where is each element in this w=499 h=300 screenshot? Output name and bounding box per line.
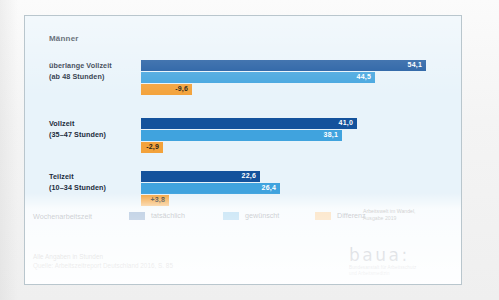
bar-value-desired: 44,5 bbox=[357, 73, 371, 80]
baua-logo-subtitle: Bundesanstalt für Arbeitsschutz und Arbe… bbox=[349, 265, 453, 277]
source-note-line1: Alle Angaben in Stunden bbox=[33, 252, 173, 261]
figure-card: Männer überlange Vollzeit (ab 48 Stunden… bbox=[24, 15, 462, 285]
category-label: Teilzeit (10–34 Stunden) bbox=[49, 171, 141, 193]
category-label-line1: überlange Vollzeit bbox=[49, 60, 141, 71]
category-bars: 54,1 44,5 -9,6 bbox=[141, 60, 462, 96]
legend-label: gewünscht bbox=[245, 211, 279, 220]
category-label: Vollzeit (35–47 Stunden) bbox=[49, 118, 141, 140]
legend-label: Differenz bbox=[337, 211, 366, 220]
bar-difference[interactable]: -2,9 bbox=[141, 142, 163, 153]
bar-value-difference: -9,6 bbox=[175, 85, 188, 92]
legend-label: tatsächlich bbox=[151, 211, 185, 220]
bar-value-difference: -2,9 bbox=[146, 143, 159, 150]
baua-logo-wordmark: baua: bbox=[349, 246, 453, 264]
bar-row-desired: 38,1 bbox=[141, 130, 462, 141]
bar-value-actual: 54,1 bbox=[408, 61, 422, 68]
bar-row-difference: -9,6 bbox=[141, 84, 462, 95]
bar-actual[interactable]: 41,0 bbox=[141, 118, 357, 129]
bar-difference[interactable]: +3,8 bbox=[141, 195, 169, 206]
bar-row-actual: 41,0 bbox=[141, 118, 462, 129]
bar-desired[interactable]: 26,4 bbox=[141, 183, 280, 194]
bar-chart-plot: Männer überlange Vollzeit (ab 48 Stunden… bbox=[25, 16, 462, 206]
bar-value-desired: 26,4 bbox=[262, 184, 276, 191]
bar-desired[interactable]: 38,1 bbox=[141, 130, 342, 141]
legend-swatch-icon bbox=[315, 212, 331, 220]
figure-footer: Alle Angaben in Stunden Quelle: Arbeitsz… bbox=[25, 238, 462, 285]
category-label-line1: Vollzeit bbox=[49, 118, 141, 129]
bar-row-difference: +3,8 bbox=[141, 195, 462, 206]
bar-actual[interactable]: 54,1 bbox=[141, 60, 426, 71]
bar-value-difference: +3,8 bbox=[150, 196, 165, 203]
bar-row-desired: 44,5 bbox=[141, 72, 462, 83]
bar-value-actual: 41,0 bbox=[339, 119, 353, 126]
source-note-line2: Quelle: Arbeitszeitreport Deutschland 20… bbox=[33, 261, 173, 270]
category-label-line2: (ab 48 Stunden) bbox=[49, 71, 141, 82]
category-label: überlange Vollzeit (ab 48 Stunden) bbox=[49, 60, 141, 82]
legend-swatch-icon bbox=[129, 212, 145, 220]
bar-actual[interactable]: 22,6 bbox=[141, 171, 260, 182]
legend-swatch-icon bbox=[223, 212, 239, 220]
bar-row-difference: -2,9 bbox=[141, 142, 462, 153]
category-bars: 41,0 38,1 -2,9 bbox=[141, 118, 462, 154]
legend-title: Wochenarbeitszeit bbox=[33, 212, 92, 221]
source-note: Alle Angaben in Stunden Quelle: Arbeitsz… bbox=[33, 252, 173, 270]
bar-value-desired: 38,1 bbox=[324, 131, 338, 138]
chart-group-title: Männer bbox=[49, 34, 79, 43]
bar-row-actual: 54,1 bbox=[141, 60, 462, 71]
baua-logo-subtitle-line2: und Arbeitsmedizin bbox=[349, 271, 453, 277]
scanned-page: Männer überlange Vollzeit (ab 48 Stunden… bbox=[0, 0, 499, 300]
bar-value-actual: 22,6 bbox=[242, 172, 256, 179]
baua-logo: baua: Bundesanstalt für Arbeitsschutz un… bbox=[349, 246, 453, 277]
category-label-line1: Teilzeit bbox=[49, 171, 141, 182]
bar-row-actual: 22,6 bbox=[141, 171, 462, 182]
category-label-line2: (35–47 Stunden) bbox=[49, 129, 141, 140]
bar-desired[interactable]: 44,5 bbox=[141, 72, 375, 83]
category-bars: 22,6 26,4 +3,8 bbox=[141, 171, 462, 207]
series-note: Arbeitswelt im Wandel, Ausgabe 2019 bbox=[363, 208, 451, 222]
series-note-line2: Ausgabe 2019 bbox=[363, 215, 451, 222]
category-label-line2: (10–34 Stunden) bbox=[49, 182, 141, 193]
series-note-line1: Arbeitswelt im Wandel, bbox=[363, 208, 451, 215]
bar-row-desired: 26,4 bbox=[141, 183, 462, 194]
bar-difference[interactable]: -9,6 bbox=[141, 84, 192, 95]
